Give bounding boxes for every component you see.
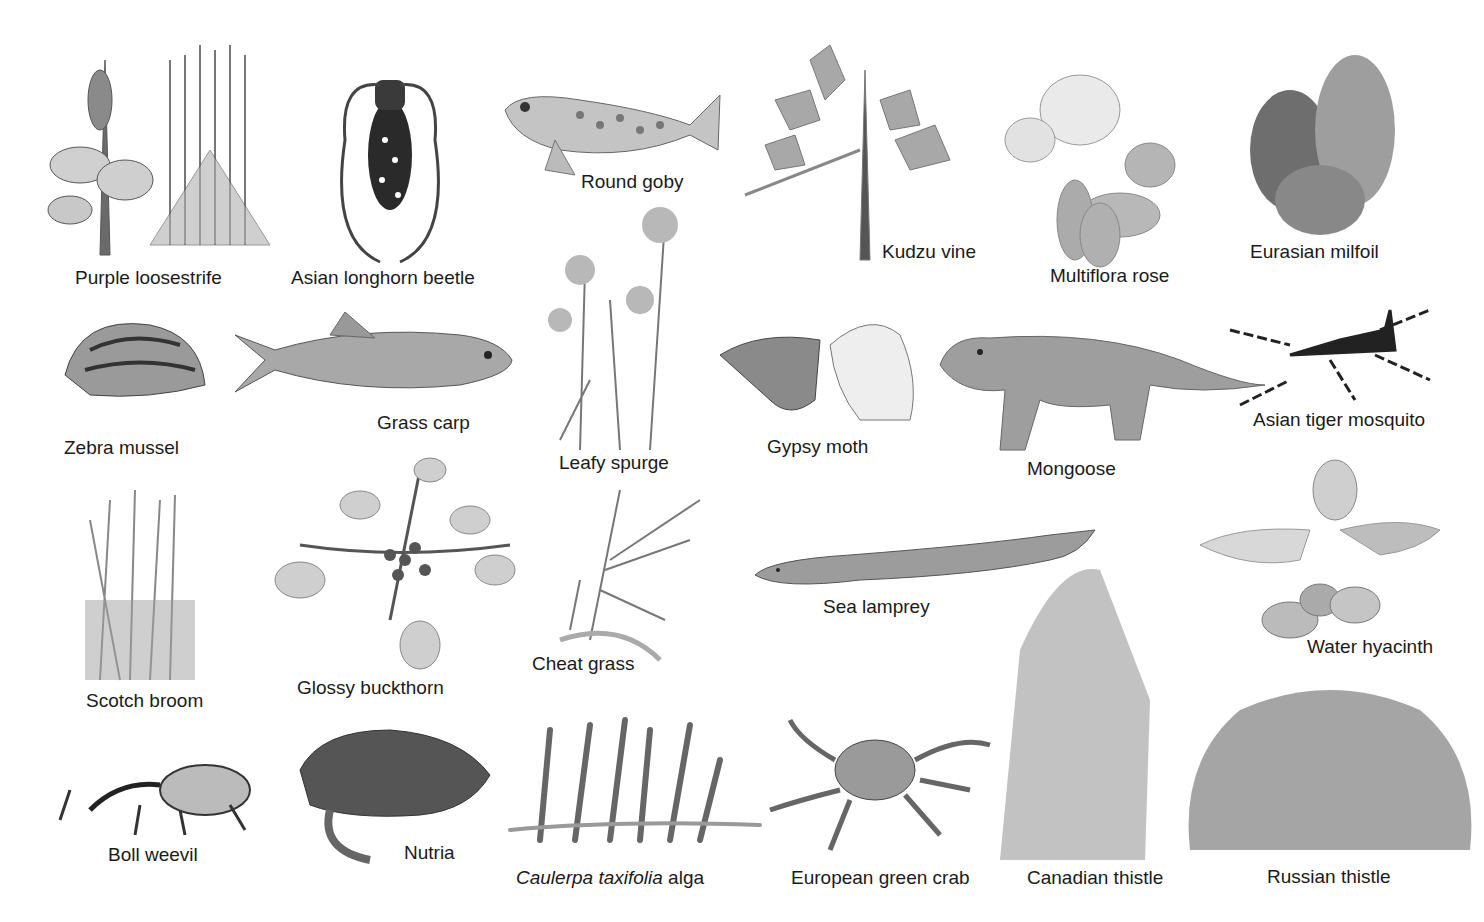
scotch-broom-illustration bbox=[85, 490, 195, 680]
label-sea-lamprey: Sea lamprey bbox=[823, 597, 930, 616]
zebra-mussel-illustration bbox=[65, 324, 205, 397]
label-caulerpa-taxifolia-alga: Caulerpa taxifolia alga bbox=[516, 868, 704, 887]
eurasian-milfoil-illustration bbox=[1250, 55, 1395, 235]
leafy-spurge-illustration bbox=[548, 207, 678, 450]
label-caulerpa-italic: Caulerpa taxifolia bbox=[516, 867, 663, 888]
label-purple-loosestrife: Purple loosestrife bbox=[75, 268, 222, 287]
purple-loosestrife-illustration bbox=[48, 45, 270, 255]
caulerpa-illustration bbox=[510, 720, 760, 840]
nutria-illustration bbox=[300, 730, 490, 860]
label-zebra-mussel: Zebra mussel bbox=[64, 438, 179, 457]
label-european-green-crab: European green crab bbox=[791, 868, 970, 887]
mongoose-illustration bbox=[940, 336, 1265, 450]
label-caulerpa-rest: alga bbox=[663, 867, 704, 888]
label-nutria: Nutria bbox=[404, 843, 455, 862]
water-hyacinth-illustration bbox=[1200, 460, 1440, 638]
multiflora-rose-illustration bbox=[1005, 75, 1175, 267]
illustrations-layer bbox=[0, 0, 1484, 922]
label-gypsy-moth: Gypsy moth bbox=[767, 437, 868, 456]
european-green-crab-illustration bbox=[770, 720, 990, 850]
sea-lamprey-illustration bbox=[755, 530, 1095, 584]
grass-carp-illustration bbox=[235, 312, 512, 392]
asian-tiger-mosquito-illustration bbox=[1230, 310, 1430, 405]
label-scotch-broom: Scotch broom bbox=[86, 691, 203, 710]
gypsy-moth-illustration bbox=[720, 325, 913, 420]
label-round-goby: Round goby bbox=[581, 172, 683, 191]
round-goby-illustration bbox=[505, 95, 720, 175]
asian-longhorn-beetle-illustration bbox=[342, 80, 439, 262]
species-plate: Purple loosestrife Asian longhorn beetle… bbox=[0, 0, 1484, 922]
label-leafy-spurge: Leafy spurge bbox=[559, 453, 669, 472]
label-grass-carp: Grass carp bbox=[377, 413, 470, 432]
glossy-buckthorn-illustration bbox=[275, 458, 515, 669]
russian-thistle-illustration bbox=[1189, 690, 1472, 850]
boll-weevil-illustration bbox=[60, 765, 250, 835]
label-eurasian-milfoil: Eurasian milfoil bbox=[1250, 242, 1379, 261]
label-canadian-thistle: Canadian thistle bbox=[1027, 868, 1163, 887]
label-boll-weevil: Boll weevil bbox=[108, 845, 198, 864]
label-water-hyacinth: Water hyacinth bbox=[1307, 637, 1433, 656]
label-russian-thistle: Russian thistle bbox=[1267, 867, 1391, 886]
label-kudzu-vine: Kudzu vine bbox=[882, 242, 976, 261]
kudzu-vine-illustration bbox=[745, 45, 950, 260]
label-glossy-buckthorn: Glossy buckthorn bbox=[297, 678, 444, 697]
cheat-grass-illustration bbox=[560, 490, 700, 660]
label-cheat-grass: Cheat grass bbox=[532, 654, 634, 673]
label-mongoose: Mongoose bbox=[1027, 459, 1116, 478]
label-asian-tiger-mosquito: Asian tiger mosquito bbox=[1253, 410, 1425, 429]
canadian-thistle-illustration bbox=[1000, 569, 1150, 860]
label-multiflora-rose: Multiflora rose bbox=[1050, 266, 1169, 285]
label-asian-longhorn-beetle: Asian longhorn beetle bbox=[291, 268, 475, 287]
